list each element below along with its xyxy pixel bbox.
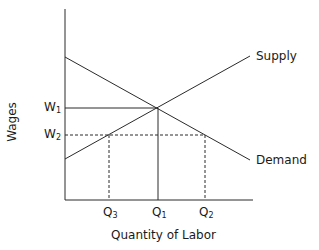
supply-label: Supply <box>256 50 297 62</box>
w1-base: W <box>44 100 56 114</box>
q3-label: Q3 <box>103 206 118 220</box>
w1-sub: 1 <box>56 106 61 115</box>
y-axis-title: Wages <box>5 102 19 142</box>
q2-label: Q2 <box>199 206 214 220</box>
x-axis-title: Quantity of Labor <box>111 229 216 241</box>
q1-sub: 1 <box>161 211 166 220</box>
demand-label: Demand <box>256 154 307 166</box>
q1-label: Q1 <box>152 206 167 220</box>
w2-label: W2 <box>44 128 61 142</box>
w1-label: W1 <box>44 101 61 115</box>
q3-sub: 3 <box>112 211 117 220</box>
w2-base: W <box>44 127 56 141</box>
w2-sub: 2 <box>56 133 61 142</box>
q2-sub: 2 <box>208 211 213 220</box>
